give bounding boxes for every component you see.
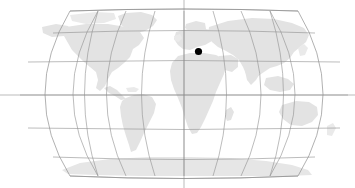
marker-layer (195, 48, 202, 55)
location-marker-dot[interactable] (195, 48, 202, 55)
world-locator-map (0, 0, 355, 188)
world-map-canvas (0, 0, 355, 188)
